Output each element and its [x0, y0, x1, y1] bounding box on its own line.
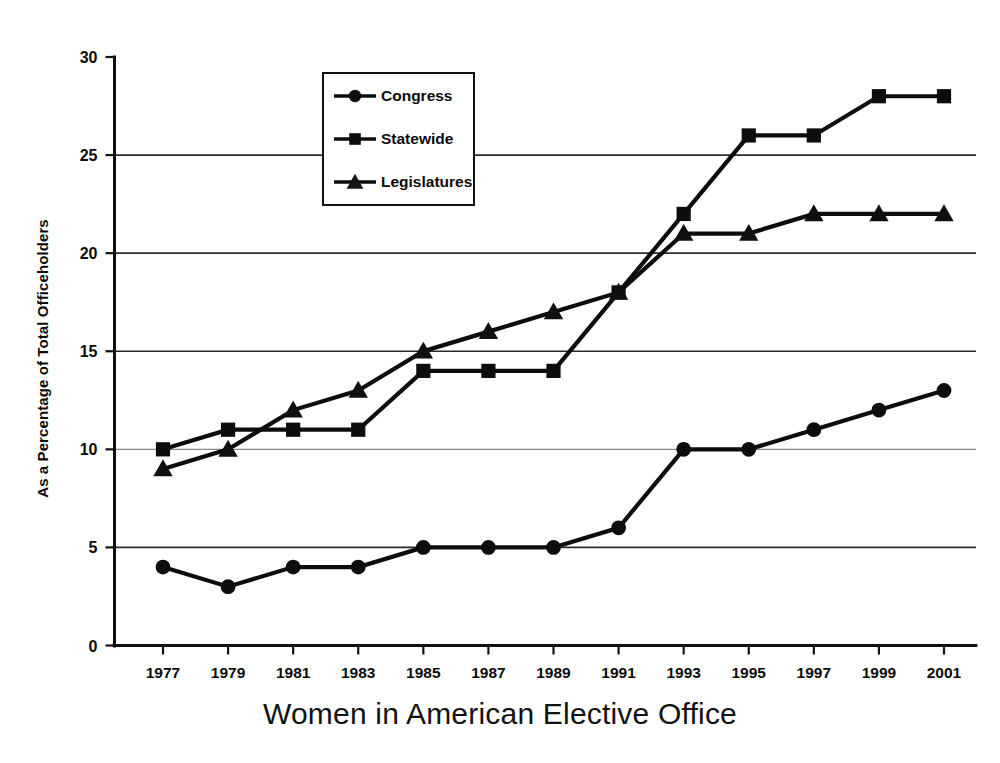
- data-point-statewide-1993: [677, 208, 690, 221]
- series-line-statewide: [163, 96, 944, 449]
- y-tick-label-10: 10: [80, 441, 98, 458]
- data-point-statewide-1987: [482, 365, 495, 378]
- data-point-congress-1993: [677, 443, 690, 456]
- legend-marker-square-icon: [332, 129, 378, 149]
- data-point-statewide-1983: [352, 423, 365, 436]
- chart-container: 051015202530 197719791981198319851987198…: [0, 0, 1000, 763]
- y-tick-labels: 051015202530: [80, 49, 98, 655]
- data-point-congress-1999: [872, 404, 885, 417]
- data-point-statewide-1997: [808, 129, 821, 142]
- x-tick-label-1991: 1991: [601, 664, 636, 681]
- x-tick-label-1997: 1997: [797, 664, 831, 681]
- data-point-congress-1989: [547, 541, 560, 554]
- x-tick-labels: 1977197919811983198519871989199119931995…: [146, 664, 962, 681]
- line-chart-plot: 051015202530 197719791981198319851987198…: [0, 0, 1000, 763]
- data-point-congress-1991: [612, 521, 625, 534]
- x-tick-label-1985: 1985: [406, 664, 441, 681]
- y-tick-label-30: 30: [80, 49, 98, 66]
- data-point-congress-1997: [807, 423, 820, 436]
- x-tick-label-1981: 1981: [276, 664, 311, 681]
- data-point-congress-1977: [156, 560, 169, 573]
- data-point-congress-1981: [287, 560, 300, 573]
- legend-item-legislatures: Legislatures: [332, 171, 472, 193]
- y-tick-label-0: 0: [89, 638, 98, 655]
- x-tick-label-1983: 1983: [341, 664, 376, 681]
- data-point-statewide-1979: [222, 423, 235, 436]
- data-point-statewide-1977: [157, 443, 170, 456]
- data-point-congress-2001: [937, 384, 950, 397]
- data-point-congress-1985: [417, 541, 430, 554]
- y-tick-label-15: 15: [80, 343, 98, 360]
- chart-title: Women in American Elective Office: [0, 697, 1000, 731]
- legend-label-statewide: Statewide: [381, 131, 453, 147]
- x-tick-label-1977: 1977: [146, 664, 180, 681]
- data-point-congress-1987: [482, 541, 495, 554]
- series-legislatures: [155, 207, 952, 476]
- x-tick-label-1979: 1979: [211, 664, 246, 681]
- data-point-statewide-1995: [742, 129, 755, 142]
- legend-marker-circle-icon: [332, 86, 378, 106]
- legend-label-legislatures: Legislatures: [381, 174, 472, 190]
- data-point-statewide-1999: [873, 90, 886, 103]
- y-tick-label-20: 20: [80, 245, 98, 262]
- legend-label-congress: Congress: [381, 88, 453, 104]
- x-tick-label-1993: 1993: [666, 664, 701, 681]
- x-tick-label-1987: 1987: [471, 664, 505, 681]
- data-point-statewide-1989: [547, 365, 560, 378]
- data-point-congress-1983: [352, 560, 365, 573]
- legend-item-statewide: Statewide: [332, 128, 453, 150]
- y-tick-label-25: 25: [80, 147, 98, 164]
- chart-legend: Congress Statewide Legislatures: [322, 72, 475, 206]
- series-statewide: [157, 90, 951, 456]
- x-tick-label-1995: 1995: [732, 664, 767, 681]
- series-congress: [156, 384, 950, 593]
- legend-item-congress: Congress: [332, 85, 453, 107]
- data-point-congress-1995: [742, 443, 755, 456]
- data-point-statewide-1981: [287, 423, 300, 436]
- y-axis-title: As a Percentage of Total Officeholders: [34, 199, 51, 519]
- data-point-statewide-2001: [938, 90, 951, 103]
- data-point-congress-1979: [221, 580, 234, 593]
- legend-marker-triangle-icon: [332, 172, 378, 192]
- data-point-statewide-1985: [417, 365, 430, 378]
- x-tick-label-1999: 1999: [862, 664, 897, 681]
- x-tick-label-2001: 2001: [927, 664, 962, 681]
- series-group: [155, 90, 952, 593]
- y-tick-label-5: 5: [89, 539, 98, 556]
- x-tick-label-1989: 1989: [536, 664, 571, 681]
